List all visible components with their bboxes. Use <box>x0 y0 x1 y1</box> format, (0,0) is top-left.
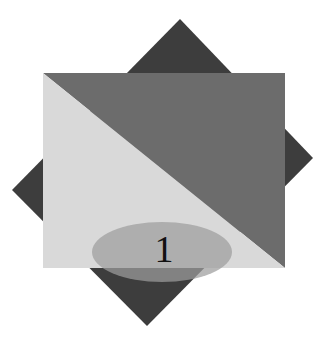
figure-canvas: 1 <box>0 0 334 342</box>
shape-composition: 1 <box>0 0 334 342</box>
shape-label: 1 <box>155 228 174 270</box>
